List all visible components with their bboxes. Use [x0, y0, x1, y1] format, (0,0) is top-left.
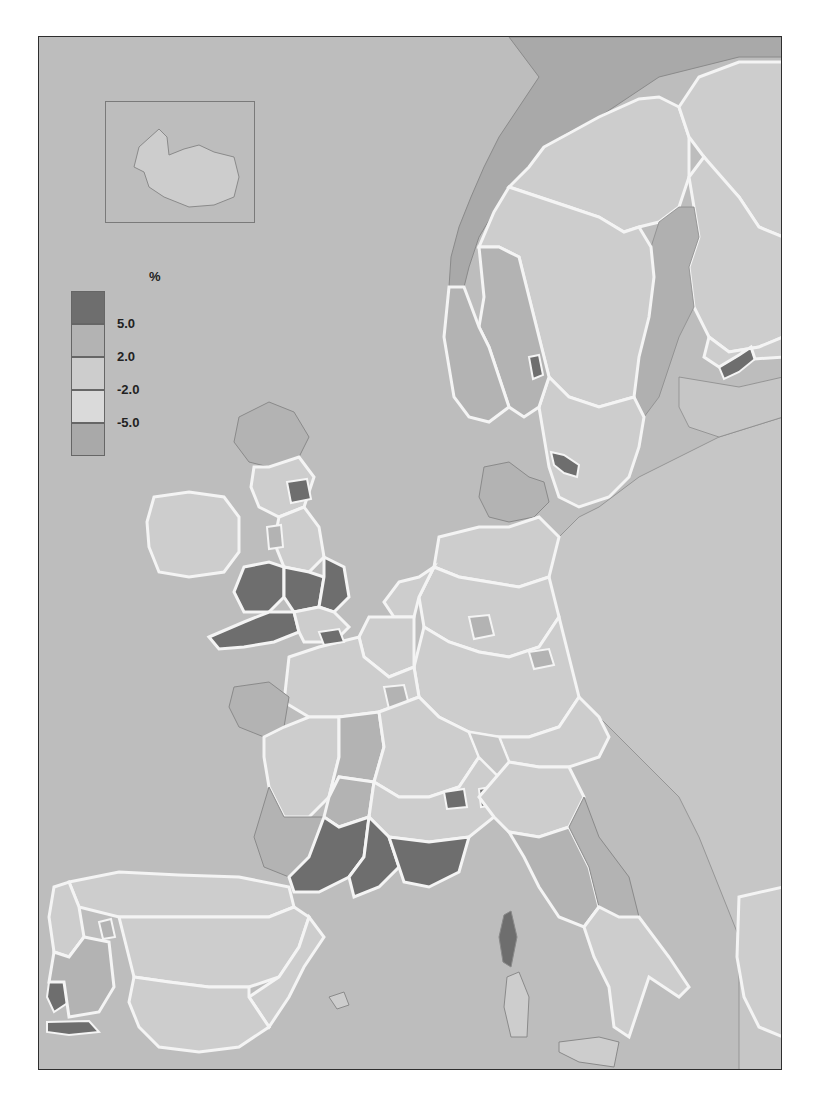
legend-swatch-gt5 — [71, 291, 105, 324]
legend-label-5: 5.0 — [117, 316, 135, 331]
region-rhone-alpes-dark-1[interactable] — [444, 789, 467, 809]
region-kent-dark[interactable] — [319, 629, 344, 645]
legend-swatch-ltm5 — [71, 423, 105, 456]
legend-swatch-2to5 — [71, 324, 105, 357]
iceland-inset-frame — [105, 101, 255, 223]
region-north-east-dark[interactable] — [287, 479, 311, 503]
legend-label-m2: -2.0 — [117, 382, 139, 397]
legend-unit-label: % — [149, 269, 161, 284]
map-legend: % 5.0 2.0 -2.0 -5.0 — [69, 269, 179, 469]
region-algarve[interactable] — [47, 1021, 99, 1035]
region-germany-shaded-1[interactable] — [469, 615, 494, 639]
region-ireland[interactable] — [147, 492, 239, 577]
region-wales[interactable] — [234, 562, 284, 612]
legend-label-m5: -5.0 — [117, 415, 139, 430]
legend-swatch-m5tom2 — [71, 390, 105, 423]
map-frame: % 5.0 2.0 -2.0 -5.0 — [38, 36, 782, 1070]
region-germany-shaded-2[interactable] — [529, 649, 554, 669]
legend-swatch-m2to2 — [71, 357, 105, 390]
region-cumbria[interactable] — [267, 525, 283, 549]
region-spain-shaded[interactable] — [99, 919, 115, 939]
legend-label-2: 2.0 — [117, 349, 135, 364]
